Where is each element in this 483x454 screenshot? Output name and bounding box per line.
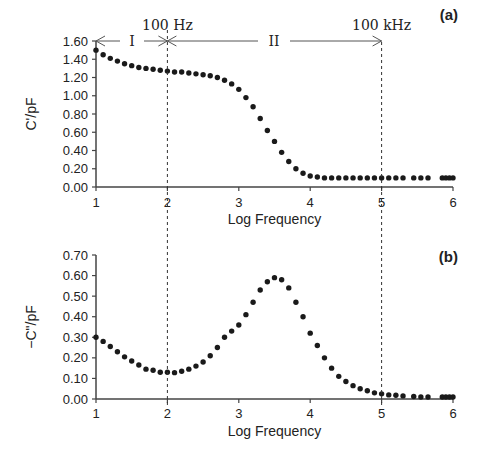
x-tick-label: 6 — [449, 406, 456, 421]
data-point — [357, 175, 362, 180]
y-tick-label: 1.00 — [63, 88, 88, 103]
data-point — [215, 75, 220, 80]
data-point — [372, 175, 377, 180]
data-point — [386, 392, 391, 397]
data-point — [222, 335, 227, 340]
data-point — [293, 166, 298, 171]
y-tick-label: 1.60 — [63, 34, 88, 49]
data-point — [208, 73, 213, 78]
y-axis-label: −C"/pF — [23, 305, 39, 348]
data-point — [150, 368, 155, 373]
panel-label: (a) — [440, 6, 458, 23]
y-tick-label: 1.20 — [63, 70, 88, 85]
data-point — [418, 394, 423, 399]
data-point — [172, 69, 177, 74]
x-axis-label: Log Frequency — [228, 211, 321, 227]
data-point — [115, 58, 120, 63]
data-point — [357, 386, 362, 391]
panel-a: 0.000.200.400.600.801.001.201.401.601234… — [23, 6, 458, 227]
data-point — [250, 104, 255, 109]
data-point — [236, 322, 241, 327]
data-point — [243, 95, 248, 100]
data-point — [258, 287, 263, 292]
data-point — [143, 66, 148, 71]
data-point — [400, 175, 405, 180]
x-axis-label: Log Frequency — [228, 423, 321, 439]
y-tick-label: 0.00 — [63, 392, 88, 407]
data-point — [329, 175, 334, 180]
chart-figure: 0.000.200.400.600.801.001.201.401.601234… — [0, 0, 483, 454]
data-point — [158, 370, 163, 375]
x-tick-label: 1 — [92, 406, 99, 421]
data-point — [193, 71, 198, 76]
y-tick-label: 0.80 — [63, 107, 88, 122]
data-point — [129, 63, 134, 68]
data-point — [350, 175, 355, 180]
data-point — [293, 300, 298, 305]
data-point — [108, 56, 113, 61]
y-tick-label: 1.40 — [63, 52, 88, 67]
data-point — [411, 394, 416, 399]
data-point — [215, 345, 220, 350]
data-point — [450, 175, 455, 180]
region-I-label: I — [129, 33, 135, 49]
data-point — [150, 67, 155, 72]
data-point — [315, 343, 320, 348]
data-point — [100, 339, 105, 344]
data-point — [272, 275, 277, 280]
data-point — [393, 393, 398, 398]
y-tick-label: 0.20 — [63, 161, 88, 176]
region-II-label: II — [268, 33, 279, 49]
data-point — [279, 277, 284, 282]
data-point — [265, 279, 270, 284]
x-tick-label: 5 — [378, 195, 385, 210]
data-point — [243, 312, 248, 317]
panel-label: (b) — [439, 248, 458, 265]
data-point — [229, 328, 234, 333]
data-point — [411, 175, 416, 180]
data-point — [200, 72, 205, 77]
data-point — [93, 47, 98, 52]
data-point — [393, 175, 398, 180]
x-tick-label: 4 — [307, 406, 314, 421]
data-point — [229, 81, 234, 86]
data-point — [179, 69, 184, 74]
data-point — [418, 175, 423, 180]
y-tick-label: 0.40 — [63, 309, 88, 324]
data-point — [143, 366, 148, 371]
x-tick-label: 5 — [378, 406, 385, 421]
y-tick-label: 0.60 — [63, 268, 88, 283]
data-point — [286, 285, 291, 290]
y-axis-label: C'/pF — [23, 97, 39, 130]
data-point — [343, 379, 348, 384]
y-tick-label: 0.50 — [63, 289, 88, 304]
data-point — [93, 335, 98, 340]
x-tick-label: 2 — [164, 406, 171, 421]
data-point — [186, 70, 191, 75]
data-point — [222, 78, 227, 83]
data-point — [400, 393, 405, 398]
data-point — [250, 300, 255, 305]
data-point — [308, 330, 313, 335]
data-point — [200, 359, 205, 364]
x-tick-label: 3 — [235, 406, 242, 421]
x-tick-label: 3 — [235, 195, 242, 210]
y-tick-label: 0.00 — [63, 180, 88, 195]
data-point — [136, 362, 141, 367]
y-tick-label: 0.20 — [63, 350, 88, 365]
x-tick-label: 4 — [307, 195, 314, 210]
data-point — [122, 61, 127, 66]
data-point — [236, 87, 241, 92]
data-point — [258, 116, 263, 121]
data-point — [136, 65, 141, 70]
data-point — [300, 314, 305, 319]
data-point — [193, 363, 198, 368]
data-point — [425, 175, 430, 180]
data-point — [336, 175, 341, 180]
y-tick-label: 0.30 — [63, 330, 88, 345]
data-point — [365, 175, 370, 180]
data-point — [450, 394, 455, 399]
data-point — [329, 365, 334, 370]
data-point — [350, 383, 355, 388]
y-tick-label: 0.60 — [63, 125, 88, 140]
